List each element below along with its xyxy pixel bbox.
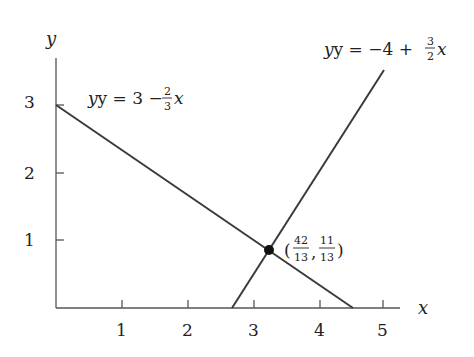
line1-equation-label: yy = 3 − 2 3 x [87, 85, 184, 113]
intersection-plot: 1 2 3 4 5 1 2 3 y x yy = 3 − 2 3 x yy = … [0, 0, 474, 357]
svg-text:x: x [174, 88, 184, 108]
svg-text:13: 13 [294, 251, 308, 264]
y-axis-label: y [45, 28, 57, 49]
x-tick-label-4: 4 [314, 320, 325, 340]
svg-text:13: 13 [320, 251, 334, 264]
svg-text:2: 2 [427, 50, 434, 63]
svg-text:x: x [437, 39, 447, 59]
x-tick-label-2: 2 [182, 320, 193, 340]
y-tick-label-3: 3 [24, 92, 35, 112]
svg-text:): ) [337, 240, 344, 260]
svg-text:3: 3 [427, 35, 434, 48]
svg-text:11: 11 [320, 234, 334, 247]
intersection-point [264, 245, 274, 255]
line-y-3-minus-two-thirds-x [56, 105, 353, 308]
svg-text:yy = −4 +: yy = −4 + [323, 39, 413, 59]
line-y-minus-4-plus-three-halves-x [232, 70, 384, 308]
x-tick-label-3: 3 [248, 320, 259, 340]
y-tick-label-1: 1 [24, 230, 35, 250]
svg-text:(: ( [284, 240, 291, 260]
y-ticks [56, 105, 64, 240]
x-axis-label: x [418, 297, 428, 318]
x-tick-label-5: 5 [377, 320, 388, 340]
svg-text:yy = 3 −: yy = 3 − [87, 88, 163, 108]
svg-text:,: , [311, 242, 316, 262]
line2-equation-label: yy = −4 + 3 2 x [323, 35, 447, 63]
intersection-label: ( 42 13 , 11 13 ) [284, 234, 344, 264]
svg-text:2: 2 [164, 85, 171, 98]
svg-text:3: 3 [164, 100, 171, 113]
x-tick-label-1: 1 [116, 320, 127, 340]
svg-text:42: 42 [294, 234, 308, 247]
y-tick-label-2: 2 [24, 163, 35, 183]
